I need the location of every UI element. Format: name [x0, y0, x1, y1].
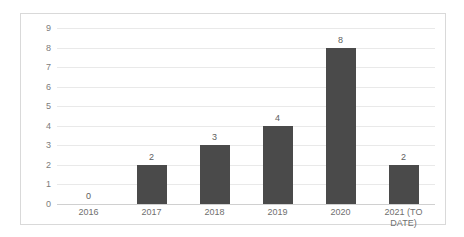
y-axis-tick-label: 3 [46, 141, 51, 150]
bar-value-label: 2 [401, 153, 406, 162]
y-axis-tick-label: 6 [46, 82, 51, 91]
chart-container: 9 8 7 6 5 4 3 2 1 0 0 [20, 13, 446, 225]
bar-slot[interactable]: 3 [183, 28, 246, 204]
x-axis-tick-label: 2021 (TO DATE) [372, 207, 435, 229]
bar-series: 0 2 3 4 8 2 [57, 28, 435, 204]
y-axis-tick-label: 7 [46, 63, 51, 72]
x-axis-tick-label: 2016 [57, 207, 120, 229]
bar-value-label: 8 [338, 36, 343, 45]
y-axis-tick-label: 2 [46, 160, 51, 169]
y-axis-tick-label: 4 [46, 121, 51, 130]
bar-value-label: 0 [86, 192, 91, 201]
y-axis-tick-label: 8 [46, 43, 51, 52]
bar-slot[interactable]: 2 [120, 28, 183, 204]
bar[interactable] [326, 48, 356, 204]
bar-slot[interactable]: 0 [57, 28, 120, 204]
y-axis-tick-label: 0 [46, 200, 51, 209]
x-axis-tick-label: 2020 [309, 207, 372, 229]
bar[interactable] [389, 165, 419, 204]
x-axis-tick-label: 2017 [120, 207, 183, 229]
x-axis-tick-label: 2019 [246, 207, 309, 229]
bar-value-label: 4 [275, 114, 280, 123]
bar-slot[interactable]: 8 [309, 28, 372, 204]
x-axis-tick-label: 2018 [183, 207, 246, 229]
plot-area: 9 8 7 6 5 4 3 2 1 0 0 [57, 28, 435, 204]
bar[interactable] [200, 145, 230, 204]
y-axis-tick-label: 5 [46, 102, 51, 111]
x-axis-labels: 2016 2017 2018 2019 2020 2021 (TO DATE) [57, 207, 435, 229]
x-axis-line: 0 [57, 204, 435, 205]
bar[interactable] [263, 126, 293, 204]
bar-slot[interactable]: 2 [372, 28, 435, 204]
bar-value-label: 3 [212, 133, 217, 142]
y-axis-tick-label: 9 [46, 24, 51, 33]
bar[interactable] [137, 165, 167, 204]
bar-slot[interactable]: 4 [246, 28, 309, 204]
bar-value-label: 2 [149, 153, 154, 162]
y-axis-tick-label: 1 [46, 180, 51, 189]
